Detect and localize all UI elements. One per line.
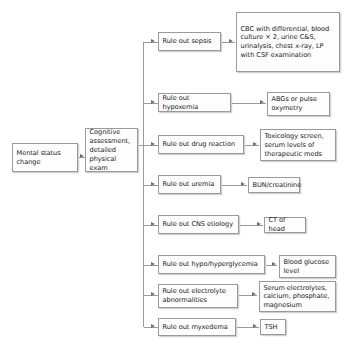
node-result-serum-electrolytes: Serum electrolytes, calcium, phosphate, …	[259, 281, 336, 312]
node-cognitive-assessment: Cognitive assessment, detailed physical …	[85, 128, 138, 172]
node-cognitive-assessment-label: Cognitive assessment, detailed physical …	[90, 128, 135, 172]
arrowhead-trunk-to-step-1	[151, 39, 155, 43]
node-rule-out-uremia: Rule out uremia	[158, 175, 221, 194]
node-rule-out-myxedema: Rule out myxedema	[158, 318, 236, 336]
node-rule-out-drug-reaction: Rule out drug reaction	[158, 135, 244, 154]
node-result-tsh-label: TSH	[265, 323, 283, 332]
node-rule-out-uremia-label: Rule out uremia	[163, 180, 218, 189]
arrowhead-step-2-to-result-2	[260, 100, 264, 104]
node-rule-out-hypoxemia-label: Rule out hypoxemia	[163, 94, 228, 112]
node-result-sepsis-workup: CBC with differential, blood culture × 2…	[236, 12, 340, 72]
arrowhead-step-6-to-result-6	[272, 262, 276, 266]
arrowhead-step-5-to-result-5	[257, 222, 261, 226]
node-result-sepsis-workup-label: CBC with differential, blood culture × 2…	[241, 25, 337, 60]
node-rule-out-hypoxemia: Rule out hypoxemia	[158, 93, 231, 112]
arrowhead-trunk-to-step-5	[151, 222, 155, 226]
node-result-abg-pulse-ox-label: ABGs or pulse oxymetry	[272, 95, 327, 113]
node-rule-out-drug-reaction-label: Rule out drug reaction	[163, 140, 241, 149]
node-mental-status-change: Mental status change	[12, 143, 78, 172]
node-result-blood-glucose-label: Blood glucose level	[284, 258, 333, 276]
node-rule-out-sepsis-label: Rule out sepsis	[163, 37, 218, 46]
node-result-blood-glucose: Blood glucose level	[279, 255, 336, 278]
node-result-ct-of-head-label: CT of head	[269, 216, 303, 234]
arrowhead-step-7-to-result-7	[252, 292, 256, 296]
arrowhead-trunk-to-step-3	[151, 142, 155, 146]
node-result-tsh: TSH	[260, 319, 286, 335]
node-rule-out-electrolyte-abnormalities-label: Rule out electrolyte abnormalities	[163, 287, 235, 305]
arrowhead-step-3-to-result-3	[253, 142, 257, 146]
arrowhead-step-8-to-result-8	[253, 324, 257, 328]
node-result-toxicology-screen-label: Toxicology screen, serum levels of thera…	[265, 132, 333, 158]
arrowhead-trunk-to-step-4	[151, 182, 155, 186]
node-rule-out-cns-etiology-label: Rule out CNS etiology	[163, 220, 236, 229]
node-result-toxicology-screen: Toxicology screen, serum levels of thera…	[260, 129, 336, 161]
node-result-ct-of-head: CT of head	[264, 217, 306, 233]
node-rule-out-myxedema-label: Rule out myxedema	[163, 323, 233, 332]
node-rule-out-glycemia: Rule out hypo/hyperglycemia	[158, 255, 265, 274]
flowchart-diagram: Mental status change Cognitive assessmen…	[0, 0, 350, 350]
node-rule-out-sepsis: Rule out sepsis	[158, 32, 221, 51]
node-result-bun-creatinine: BUN/creatinine	[248, 177, 300, 193]
node-mental-status-change-label: Mental status change	[17, 149, 75, 167]
arrowhead-trunk-to-step-8	[151, 324, 155, 328]
arrowhead-trunk-to-step-2	[151, 100, 155, 104]
arrowhead-step-4-to-result-4	[241, 182, 245, 186]
arrowhead-start-to-assessment	[80, 154, 84, 158]
node-result-abg-pulse-ox: ABGs or pulse oxymetry	[267, 92, 330, 116]
node-rule-out-cns-etiology: Rule out CNS etiology	[158, 215, 239, 234]
node-rule-out-electrolyte-abnormalities: Rule out electrolyte abnormalities	[158, 284, 238, 308]
arrowhead-step-1-to-result-1	[229, 39, 233, 43]
node-result-bun-creatinine-label: BUN/creatinine	[253, 181, 297, 190]
arrowhead-trunk-to-step-7	[151, 292, 155, 296]
node-result-serum-electrolytes-label: Serum electrolytes, calcium, phosphate, …	[264, 284, 333, 310]
node-rule-out-glycemia-label: Rule out hypo/hyperglycemia	[163, 260, 262, 269]
arrowhead-trunk-to-step-6	[151, 262, 155, 266]
